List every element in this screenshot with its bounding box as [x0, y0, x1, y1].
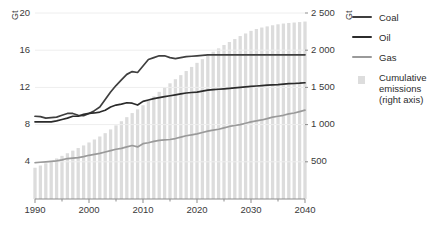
bar-2006: [120, 121, 123, 199]
bar-1996: [66, 153, 69, 199]
x-axis-tick-2040: 2040: [284, 205, 326, 215]
chart-legend: Coal Oil Gas Cumulative emissions (right…: [352, 12, 442, 114]
x-axis-tick-2000: 2000: [68, 205, 110, 215]
left-axis-tick-16: 16: [0, 45, 30, 55]
bar-2022: [206, 55, 209, 199]
bar-2007: [125, 117, 128, 199]
bar-1998: [77, 148, 80, 199]
bar-2008: [131, 113, 134, 199]
bar-2012: [152, 96, 155, 199]
legend-swatch-gas: [352, 52, 372, 58]
bar-2033: [266, 26, 269, 199]
left-axis-tick-12: 12: [0, 82, 30, 92]
legend-label-gas: Gas: [379, 52, 396, 63]
bar-2019: [190, 67, 193, 199]
bar-2002: [98, 137, 101, 200]
left-axis-tick-4: 4: [0, 156, 30, 166]
bar-2000: [87, 142, 90, 199]
legend-item-gas[interactable]: Gas: [352, 52, 442, 63]
bar-2001: [93, 139, 96, 199]
right-axis-tick-1000: 1 000: [311, 119, 351, 129]
right-axis-tick-2000: 2 000: [311, 45, 351, 55]
legend-label-coal: Coal: [379, 12, 399, 23]
bar-2004: [109, 129, 112, 199]
bar-2003: [104, 133, 107, 199]
bar-2009: [136, 109, 139, 199]
bar-2014: [163, 87, 166, 199]
right-axis-tick-500: 500: [311, 156, 351, 166]
bar-1999: [82, 145, 85, 199]
bar-2037: [287, 23, 290, 199]
bar-2010: [141, 105, 144, 199]
bar-2032: [260, 28, 263, 199]
bar-1991: [39, 166, 42, 199]
bar-series-cumulative-emissions: [33, 22, 306, 199]
chart-container: Gt 20 16 12 8 4 Gt 2 500 2 000 1 500 1 0…: [0, 0, 443, 232]
right-axis-tick-2500: 2 500: [311, 8, 351, 18]
x-axis-tick-2030: 2030: [230, 205, 272, 215]
bar-1995: [60, 156, 63, 199]
legend-item-coal[interactable]: Coal: [352, 12, 442, 23]
bar-2038: [293, 23, 296, 199]
left-axis-tick-20: 20: [0, 8, 30, 18]
bar-2034: [271, 25, 274, 199]
legend-swatch-cumulative-emissions: [352, 72, 372, 84]
legend-swatch-coal: [352, 12, 372, 18]
x-axis-tick-1990: 1990: [14, 205, 56, 215]
bar-1992: [44, 163, 47, 199]
left-axis-tick-8: 8: [0, 119, 30, 129]
bar-1993: [50, 161, 53, 199]
legend-label-oil: Oil: [379, 32, 391, 43]
legend-label-cumulative-emissions: Cumulative emissions (right axis): [379, 72, 427, 105]
legend-swatch-oil: [352, 32, 372, 38]
legend-item-cumulative-emissions[interactable]: Cumulative emissions (right axis): [352, 72, 442, 105]
bar-2020: [195, 63, 198, 199]
x-axis-tick-2020: 2020: [176, 205, 218, 215]
legend-item-oil[interactable]: Oil: [352, 32, 442, 43]
x-axis-tick-2010: 2010: [122, 205, 164, 215]
right-axis-tick-1500: 1 500: [311, 82, 351, 92]
bar-2021: [201, 59, 204, 199]
bar-2028: [239, 36, 242, 199]
bar-2027: [233, 39, 236, 199]
bar-2026: [228, 42, 231, 199]
bar-2024: [217, 48, 220, 199]
bar-2011: [147, 101, 150, 199]
bar-2025: [222, 45, 225, 199]
bar-2023: [212, 52, 215, 199]
bar-2015: [168, 83, 171, 199]
bar-1994: [55, 158, 58, 199]
bar-1990: [33, 168, 36, 199]
bar-2029: [244, 33, 247, 199]
bar-2013: [158, 92, 161, 199]
bar-2030: [249, 31, 252, 199]
